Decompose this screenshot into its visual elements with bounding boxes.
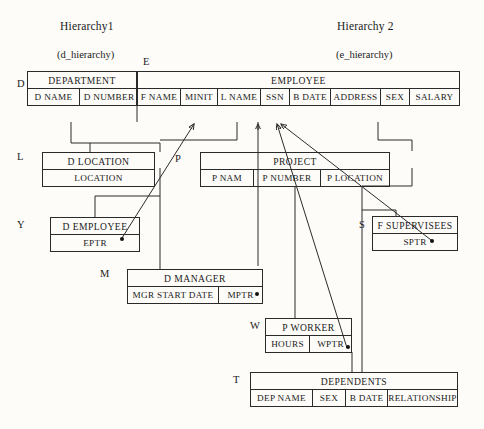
tag-f-supervisees: S [359,219,365,230]
record-d-manager-title: D MANAGER [128,270,262,287]
field-ssn[interactable]: SSN [261,89,290,106]
field-address[interactable]: ADDRESS [331,89,381,106]
record-department[interactable]: DEPARTMENT D NAME D NUMBER [27,71,137,106]
tag-project: P [175,153,181,164]
field-p-nam[interactable]: P NAM [201,170,254,187]
field-d-name[interactable]: D NAME [28,89,80,106]
hierarchical-schema-diagram: Hierarchy1 (d_hierarchy) Hierarchy 2 (e_… [0,0,484,429]
record-p-worker-title: P WORKER [266,319,351,336]
record-d-employee[interactable]: D EMPLOYEE EPTR [50,217,140,252]
record-department-title: DEPARTMENT [28,72,136,89]
field-dep-sex[interactable]: SEX [313,390,346,407]
field-dep-b-date[interactable]: B DATE [346,390,388,407]
field-b-date[interactable]: B DATE [290,89,331,106]
field-d-number[interactable]: D NUMBER [80,89,138,106]
record-department-fields: D NAME D NUMBER [28,89,136,106]
tag-d-location: L [17,151,23,162]
record-f-supervisees-fields: SPTR [373,234,457,251]
pointer-dot-wptr [346,345,350,349]
field-location[interactable]: LOCATION [43,170,154,187]
record-d-manager-fields: MGR START DATE MPTR [128,287,262,304]
record-f-supervisees[interactable]: F SUPERVISEES SPTR [372,216,458,251]
pointer-dot-eptr [120,237,124,241]
record-employee-title: EMPLOYEE [138,72,459,89]
field-mgr-start-date[interactable]: MGR START DATE [128,287,219,304]
record-employee-fields: F NAME MINIT L NAME SSN B DATE ADDRESS S… [138,89,459,106]
record-d-employee-fields: EPTR [51,235,139,252]
field-salary[interactable]: SALARY [410,89,459,106]
record-d-manager[interactable]: D MANAGER MGR START DATE MPTR [127,269,263,304]
tag-d-manager: M [100,268,109,279]
tag-d-employee: Y [17,219,25,230]
connector-lines [0,0,484,429]
tag-department: D [17,78,25,89]
field-minit[interactable]: MINIT [181,89,218,106]
record-d-location-fields: LOCATION [43,170,154,187]
field-f-name[interactable]: F NAME [138,89,181,106]
field-relationship[interactable]: RELATIONSHIP [388,390,457,407]
field-dep-name[interactable]: DEP NAME [251,390,313,407]
record-dependents-fields: DEP NAME SEX B DATE RELATIONSHIP [251,390,457,407]
field-p-number[interactable]: P NUMBER [254,170,321,187]
field-sptr[interactable]: SPTR [373,234,457,251]
tag-employee: E [143,56,149,67]
field-hours[interactable]: HOURS [266,336,310,353]
field-wptr[interactable]: WPTR [310,336,351,353]
tag-p-worker: W [250,320,260,331]
record-project-fields: P NAM P NUMBER P LOCATION [201,170,389,187]
record-f-supervisees-title: F SUPERVISEES [373,217,457,234]
record-d-location-title: D LOCATION [43,153,154,170]
tag-dependents: T [233,374,239,385]
field-l-name[interactable]: L NAME [218,89,261,106]
record-project-title: PROJECT [201,153,389,170]
field-eptr[interactable]: EPTR [51,235,139,252]
record-d-employee-title: D EMPLOYEE [51,218,139,235]
record-p-worker-fields: HOURS WPTR [266,336,351,353]
field-p-location[interactable]: P LOCATION [321,170,389,187]
record-dependents[interactable]: DEPENDENTS DEP NAME SEX B DATE RELATIONS… [250,372,458,407]
field-sex[interactable]: SEX [381,89,410,106]
record-project[interactable]: PROJECT P NAM P NUMBER P LOCATION [200,152,390,187]
record-employee[interactable]: EMPLOYEE F NAME MINIT L NAME SSN B DATE … [137,71,460,106]
record-dependents-title: DEPENDENTS [251,373,457,390]
pointer-dot-sptr [430,239,434,243]
record-p-worker[interactable]: P WORKER HOURS WPTR [265,318,352,353]
pointer-dot-mptr [255,292,259,296]
record-d-location[interactable]: D LOCATION LOCATION [42,152,155,187]
